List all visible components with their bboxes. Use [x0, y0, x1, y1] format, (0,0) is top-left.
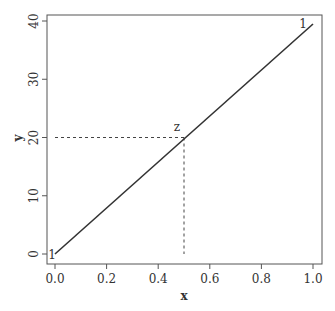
chart: 0.0 0.2 0.4 0.6 0.8 1.0 0 10 20 30 40 x …	[0, 0, 335, 311]
x-tick-label: 0.4	[149, 272, 168, 286]
x-tick-label: 0.8	[252, 272, 271, 286]
start-point-label: 1	[48, 248, 56, 262]
y-tick-label: 20	[27, 130, 41, 145]
z-point-label: z	[174, 120, 180, 134]
y-tick-label: 30	[27, 72, 41, 87]
x-tick-labels: 0.0 0.2 0.4 0.6 0.8 1.0	[45, 272, 322, 286]
data-line	[55, 24, 313, 254]
end-point-label: 1	[299, 17, 307, 31]
y-tick-label: 0	[27, 250, 41, 258]
x-axis-label: x	[180, 289, 188, 303]
x-tick-label: 0.6	[200, 272, 219, 286]
y-tick-label: 40	[27, 13, 41, 28]
y-axis-label: y	[11, 133, 25, 142]
y-tick-labels: 0 10 20 30 40	[27, 13, 41, 257]
y-axis	[42, 21, 47, 254]
y-tick-label: 10	[27, 188, 41, 203]
x-tick-label: 0.0	[45, 272, 64, 286]
x-axis	[55, 264, 313, 269]
x-tick-label: 1.0	[303, 272, 322, 286]
x-tick-label: 0.2	[97, 272, 116, 286]
